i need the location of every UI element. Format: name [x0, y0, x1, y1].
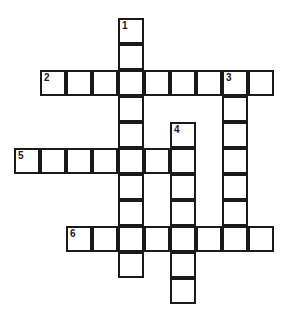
crossword-cell[interactable]: 1 [118, 18, 144, 44]
crossword-cell[interactable] [248, 226, 274, 252]
crossword-grid[interactable]: 123456 [0, 0, 284, 324]
cell-number: 4 [174, 124, 180, 135]
crossword-cell[interactable] [222, 122, 248, 148]
crossword-cell[interactable] [196, 226, 222, 252]
crossword-cell[interactable] [170, 70, 196, 96]
crossword-cell[interactable] [170, 252, 196, 278]
crossword-cell[interactable] [118, 70, 144, 96]
crossword-cell[interactable] [92, 226, 118, 252]
cell-number: 3 [226, 72, 232, 83]
crossword-cell[interactable] [222, 226, 248, 252]
crossword-cell[interactable] [118, 200, 144, 226]
crossword-cell[interactable] [170, 226, 196, 252]
crossword-cell[interactable] [222, 96, 248, 122]
crossword-cell[interactable]: 6 [66, 226, 92, 252]
crossword-cell[interactable] [118, 252, 144, 278]
crossword-cell[interactable] [118, 96, 144, 122]
crossword-cell[interactable] [222, 148, 248, 174]
crossword-cell[interactable] [92, 148, 118, 174]
cell-number: 2 [44, 72, 50, 83]
cell-number: 1 [122, 20, 128, 31]
crossword-cell[interactable] [118, 148, 144, 174]
crossword-cell[interactable] [66, 70, 92, 96]
crossword-cell[interactable] [144, 70, 170, 96]
crossword-cell[interactable]: 2 [40, 70, 66, 96]
crossword-cell[interactable] [118, 226, 144, 252]
crossword-cell[interactable] [222, 200, 248, 226]
crossword-cell[interactable] [170, 174, 196, 200]
crossword-cell[interactable] [248, 70, 274, 96]
crossword-cell[interactable] [222, 174, 248, 200]
crossword-cell[interactable] [118, 44, 144, 70]
crossword-cell[interactable] [170, 148, 196, 174]
crossword-cell[interactable] [118, 122, 144, 148]
crossword-cell[interactable] [170, 278, 196, 304]
crossword-cell[interactable] [196, 70, 222, 96]
crossword-cell[interactable] [144, 148, 170, 174]
crossword-cell[interactable]: 3 [222, 70, 248, 96]
crossword-puzzle: 123456 [0, 0, 284, 324]
cell-number: 6 [70, 228, 76, 239]
crossword-cell[interactable] [118, 174, 144, 200]
crossword-cell[interactable] [144, 226, 170, 252]
crossword-cell[interactable]: 5 [14, 148, 40, 174]
crossword-cell[interactable] [40, 148, 66, 174]
crossword-cell[interactable]: 4 [170, 122, 196, 148]
crossword-cell[interactable] [170, 200, 196, 226]
crossword-cell[interactable] [66, 148, 92, 174]
crossword-cell[interactable] [92, 70, 118, 96]
cell-number: 5 [18, 150, 24, 161]
